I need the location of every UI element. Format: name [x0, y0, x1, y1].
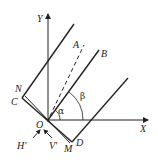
point-n-label: N: [14, 83, 23, 94]
h-prime-label: H': [16, 140, 27, 151]
geometry-diagram: Y X A B N C O H' V' M D α β: [0, 0, 158, 167]
origin-label: O: [36, 119, 43, 130]
line-ob: [48, 50, 99, 120]
y-axis-label: Y: [37, 13, 44, 24]
point-c-label: C: [11, 96, 18, 107]
diagram-canvas: Y X A B N C O H' V' M D α β: [0, 0, 158, 167]
dashed-line-oa: [50, 45, 84, 116]
x-axis-label: X: [139, 123, 147, 134]
right-parallel-line: [72, 78, 128, 142]
alpha-label: α: [58, 106, 64, 116]
h-prime-arrow: [33, 130, 40, 138]
v-prime-arrow: [44, 130, 52, 138]
point-b-label: B: [101, 48, 107, 59]
v-prime-label: V': [49, 140, 58, 151]
point-a-label: A: [72, 39, 80, 50]
beta-label: β: [80, 91, 85, 101]
point-d-label: D: [75, 137, 84, 148]
point-m-label: M: [63, 143, 73, 154]
